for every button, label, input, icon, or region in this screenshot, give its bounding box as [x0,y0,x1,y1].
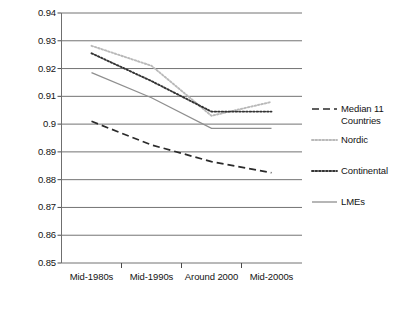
y-axis-label-0.94: 0.94 [8,7,56,18]
x-axis-label-mid-2000s: Mid-2000s [232,271,312,282]
gridlines-group [58,13,303,263]
legend-item-nordic: Nordic [341,134,403,146]
y-axis-label-0.92: 0.92 [8,63,56,74]
x-tick-marks-group [122,263,242,268]
series-line-median-11-countries [92,121,272,172]
series-line-lmes [92,73,272,129]
y-axis-label-0.87: 0.87 [8,201,56,212]
data-series-group [92,46,272,173]
legend-item-continental: Continental [341,165,403,177]
y-axis-label-0.86: 0.86 [8,229,56,240]
legend-item-median-11-countries: Median 11 Countries [341,103,403,126]
series-line-nordic [92,46,272,116]
y-axis-label-0.85: 0.85 [8,257,56,268]
y-axis-label-0.9: 0.9 [8,118,56,129]
y-axis-label-0.93: 0.93 [8,35,56,46]
y-axis-label-0.89: 0.89 [8,146,56,157]
y-axis-label-0.88: 0.88 [8,174,56,185]
legend-swatches-group [312,109,337,202]
series-line-continental [92,53,272,111]
legend-item-lmes: LMEs [341,196,403,208]
chart-figure: 0.940.930.920.910.90.890.880.870.860.85 … [0,0,406,327]
y-axis-label-0.91: 0.91 [8,90,56,101]
